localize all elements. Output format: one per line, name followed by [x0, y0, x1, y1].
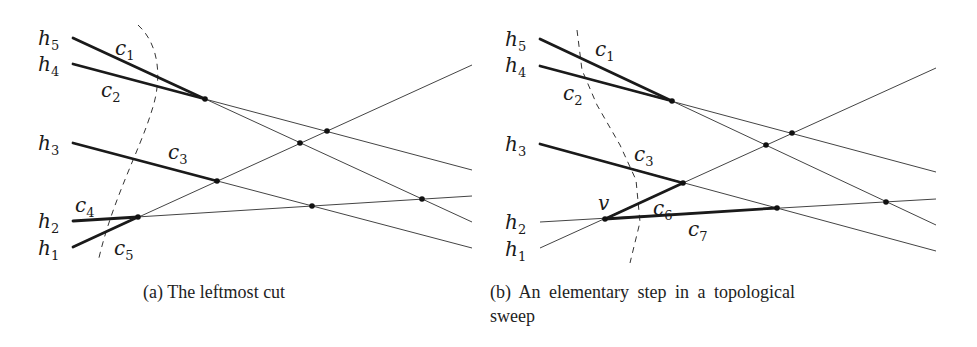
- line-h1: [540, 68, 936, 248]
- cut-dashed-curve: [577, 30, 640, 263]
- cut-label-c1: c1: [115, 36, 134, 63]
- caption-a: (a) The leftmost cut: [143, 280, 285, 304]
- line-label-h2: h2: [38, 209, 59, 236]
- cut-label-c7: c7: [688, 217, 707, 244]
- vertex-label-v: v: [598, 191, 610, 215]
- cut-edge-bold: [540, 144, 683, 183]
- line-label-h1: h1: [38, 236, 59, 263]
- line-label-h5: h5: [38, 26, 59, 53]
- caption-b: (b) An elementary step in a topological …: [490, 280, 960, 328]
- cut-label-c6: c6: [653, 196, 672, 223]
- intersection-vertex: [324, 128, 330, 134]
- intersection-vertex: [202, 96, 208, 102]
- caption-b-line1: (b) An elementary step in a topological: [490, 280, 960, 304]
- intersection-vertex: [774, 205, 780, 211]
- intersection-vertex: [297, 140, 303, 146]
- line-label-h2: h2: [505, 210, 526, 237]
- intersection-vertex: [309, 203, 315, 209]
- intersection-vertex: [602, 216, 608, 222]
- intersection-vertex: [680, 180, 686, 186]
- intersection-vertex: [789, 130, 795, 136]
- intersection-vertex: [883, 199, 889, 205]
- cut-edge-bold: [73, 143, 217, 181]
- panel-a-leftmost-cut: h5h4h3h2h1c1c2c3c4c5: [38, 25, 472, 263]
- cut-label-c2: c2: [101, 78, 120, 105]
- line-label-h4: h4: [505, 53, 526, 80]
- intersection-vertex: [669, 98, 675, 104]
- line-label-h5: h5: [505, 27, 526, 54]
- caption-b-line2: sweep: [490, 304, 960, 328]
- intersection-vertex: [419, 196, 425, 202]
- line-label-h4: h4: [38, 52, 59, 79]
- cut-label-c3: c3: [168, 140, 187, 167]
- line-label-h3: h3: [38, 131, 59, 158]
- cut-label-c1: c1: [595, 37, 614, 64]
- cut-label-c5: c5: [114, 236, 133, 263]
- panel-b-elementary-step: h5h4h3h2h1c1c2c3c6c7v: [505, 27, 936, 264]
- cut-label-c4: c4: [75, 193, 94, 220]
- intersection-vertex: [763, 142, 769, 148]
- intersection-vertex: [135, 214, 141, 220]
- line-label-h1: h1: [505, 237, 526, 264]
- line-label-h3: h3: [505, 132, 526, 159]
- cut-label-c3: c3: [634, 142, 653, 169]
- cut-label-c2: c2: [563, 81, 582, 108]
- intersection-vertex: [214, 178, 220, 184]
